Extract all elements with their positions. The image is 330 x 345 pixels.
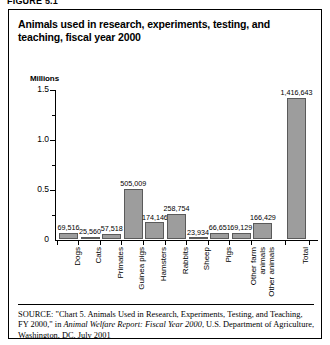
bar-value-label: 166,429 [240,213,286,222]
y-tick-label: 1.5 [27,84,49,94]
bar [102,234,121,240]
x-category-label: Cats [94,247,103,263]
source-kicker: SOURCE: [18,310,53,319]
x-category-label: Sheep [202,247,211,270]
figure-box: Animals used in research, experiments, t… [8,9,322,339]
x-category-label: Pigs [224,247,233,263]
x-category-label: Dogs [73,247,82,266]
x-tick [186,240,187,245]
y-tick-label: 0 [27,234,49,244]
y-tick-major [50,190,56,191]
x-tick [229,240,230,245]
source-publication-title: Animal Welfare Report: Fiscal Year 2000 [63,320,201,329]
x-tick [309,240,310,245]
source-note: SOURCE: "Chart 5. Animals Used in Resear… [18,310,314,339]
x-category-label: Guinea pigs [137,247,146,290]
bar [81,237,100,240]
x-category-label: Primates [116,247,125,279]
figure-caption: FIGURE 5.1 [7,0,58,6]
x-tick [208,240,209,245]
bar [189,237,208,239]
bar [287,98,306,240]
x-tick [285,240,286,245]
y-tick-label: 0.5 [27,184,49,194]
x-tick [57,240,58,245]
y-tick-label: 1.0 [27,134,49,144]
bar-value-label: 258,754 [154,204,200,213]
bar-value-label: 1,416,643 [274,88,320,97]
y-axis-unit-label: Millions [30,74,59,83]
bar [210,233,229,240]
y-tick-minor [52,165,56,166]
x-category-label: Other farm animals [249,247,267,285]
y-tick-major [50,90,56,91]
x-tick [143,240,144,245]
x-category-label: Other animals [267,247,276,297]
x-category-label: Total [301,247,310,264]
x-category-label: Rabbits [181,247,190,274]
x-tick [121,240,122,245]
bar-value-label: 505,009 [110,179,156,188]
x-tick [251,240,252,245]
source-divider [18,304,314,305]
x-tick [78,240,79,245]
bar-chart-plot-area: Millions 00.51.01.5 69,51625,56057,51850… [9,10,322,339]
x-category-label: Hamsters [159,247,168,281]
x-tick [100,240,101,245]
y-tick-minor [52,115,56,116]
y-tick-major [50,140,56,141]
y-tick-minor [52,215,56,216]
x-tick [165,240,166,245]
bar [145,222,164,239]
bar [253,223,272,240]
bar [232,233,251,240]
